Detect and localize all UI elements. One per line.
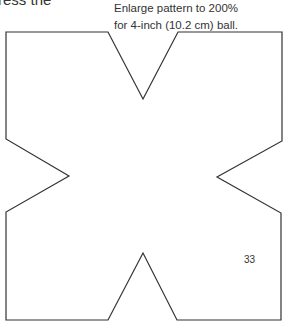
- ball-pattern-outline: [0, 0, 289, 330]
- pattern-shape: [6, 32, 282, 320]
- page-number: 33: [244, 254, 255, 265]
